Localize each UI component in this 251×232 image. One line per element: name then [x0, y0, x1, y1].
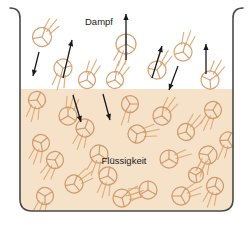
arrow-evaporate-4: [203, 44, 208, 74]
evaporation-diagram: Dampf Flüssigkeit: [0, 0, 251, 232]
vapor-molecule: [52, 57, 74, 90]
vapor-molecule-group: [30, 18, 225, 92]
arrow-evaporate-2: [123, 14, 128, 60]
arrow-condense-mid: [169, 66, 178, 90]
arrow-head: [203, 44, 208, 50]
molecule-body: [30, 25, 54, 49]
vapor-molecule: [114, 34, 136, 66]
vapor-molecule: [197, 60, 224, 92]
liquid-label: Flüssigkeit: [102, 155, 147, 166]
vapor-molecule: [77, 60, 100, 90]
vapor-molecule: [144, 50, 171, 82]
vapor-label: Dampf: [85, 16, 113, 27]
vapor-molecule: [30, 18, 59, 49]
arrow-condense-left: [32, 52, 39, 76]
motion-trail: [44, 18, 59, 34]
molecule-body: [197, 67, 222, 92]
molecule-body: [103, 68, 127, 92]
molecule-body: [77, 70, 97, 90]
arrow-head: [123, 14, 128, 20]
arrow-head: [158, 46, 163, 53]
vapor-molecule: [172, 31, 195, 63]
motion-trail: [115, 61, 130, 77]
vapor-molecule: [103, 61, 129, 92]
diagram-canvas: Dampf Flüssigkeit: [0, 0, 251, 232]
